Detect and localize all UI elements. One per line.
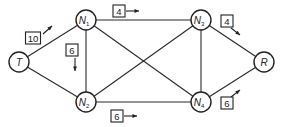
flow-value: 10 [28, 33, 39, 44]
node-n3: N3 [191, 10, 211, 30]
flow-label-n4-r: 6 [221, 90, 240, 109]
flow-label-n1-n2: 6 [66, 44, 78, 71]
node-r: R [254, 52, 274, 72]
node-n1: N1 [76, 10, 96, 30]
flow-label-n2-n4: 6 [111, 110, 137, 122]
flow-label-t-n1: 10 [26, 26, 53, 44]
node-n2: N2 [76, 92, 96, 112]
flow-label-n3-r: 4 [221, 15, 240, 35]
flow-value: 4 [116, 6, 121, 17]
node-t: T [9, 52, 29, 72]
arrowhead-icon [73, 67, 77, 72]
arrowhead-icon [135, 9, 140, 13]
flow-label-n1-n3: 4 [113, 5, 139, 17]
flow-network-diagram: 1046466 TN1N2N3N4R [0, 0, 281, 127]
flow-value: 6 [69, 45, 74, 56]
node-label: R [260, 57, 267, 68]
node-n4: N4 [191, 92, 211, 112]
arrowhead-icon [133, 114, 138, 118]
node-label: T [16, 57, 23, 68]
flow-value: 6 [224, 98, 229, 109]
flow-value: 6 [114, 111, 119, 122]
flow-value: 4 [224, 16, 229, 27]
